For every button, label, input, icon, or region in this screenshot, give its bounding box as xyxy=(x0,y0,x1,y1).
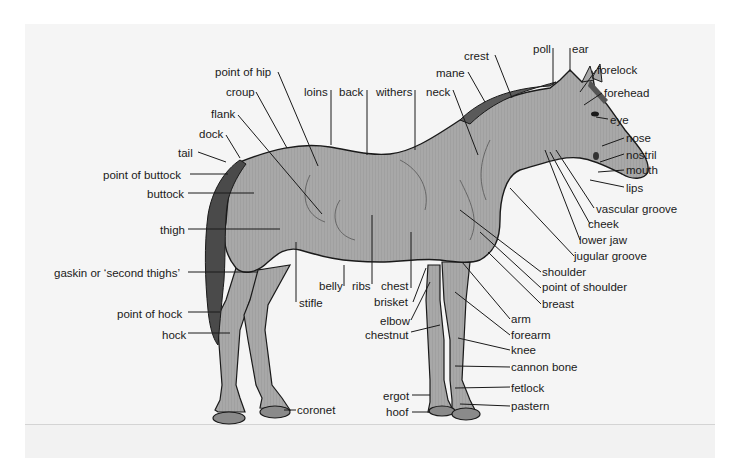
label-thigh: thigh xyxy=(160,224,185,236)
label-point-of-buttock: point of buttock xyxy=(103,169,181,181)
label-ribs: ribs xyxy=(352,280,371,292)
label-eye: eye xyxy=(610,114,629,126)
label-jugular-groove: jugular groove xyxy=(573,250,647,262)
label-lower-jaw: lower jaw xyxy=(579,234,628,246)
label-vascular-groove: vascular groove xyxy=(596,203,677,215)
label-nostril: nostril xyxy=(626,149,657,161)
label-back: back xyxy=(339,86,364,98)
label-coronet: coronet xyxy=(297,404,336,416)
label-stifle: stifle xyxy=(299,297,323,309)
label-flank: flank xyxy=(211,108,236,120)
label-tail: tail xyxy=(178,147,193,159)
label-crest: crest xyxy=(464,50,490,62)
label-nose: nose xyxy=(626,132,651,144)
label-elbow: elbow xyxy=(380,315,411,327)
label-fetlock: fetlock xyxy=(511,382,544,394)
label-ear: ear xyxy=(572,43,589,55)
label-hoof: hoof xyxy=(386,406,409,418)
label-knee: knee xyxy=(511,344,536,356)
label-point-of-shoulder: point of shoulder xyxy=(542,281,627,293)
label-croup: croup xyxy=(226,86,255,98)
label-ergot: ergot xyxy=(383,390,410,402)
nostril-shape xyxy=(593,152,599,160)
label-shoulder: shoulder xyxy=(542,266,586,278)
label-neck: neck xyxy=(426,86,451,98)
label-belly: belly xyxy=(319,280,343,292)
label-breast: breast xyxy=(542,298,575,310)
label-point-of-hock: point of hock xyxy=(117,308,182,320)
label-hock: hock xyxy=(162,329,187,341)
label-point-of-hip: point of hip xyxy=(215,66,271,78)
label-forehead: forehead xyxy=(604,87,649,99)
label-cannon-bone: cannon bone xyxy=(511,361,578,373)
label-brisket: brisket xyxy=(374,296,409,308)
label-withers: withers xyxy=(375,86,413,98)
label-arm: arm xyxy=(511,313,531,325)
label-cheek: cheek xyxy=(588,218,619,230)
label-buttock: buttock xyxy=(147,188,184,200)
label-poll: poll xyxy=(533,43,551,55)
label-chestnut: chestnut xyxy=(365,329,409,341)
eye-shape xyxy=(591,112,599,117)
label-lips: lips xyxy=(626,182,644,194)
label-loins: loins xyxy=(304,86,328,98)
label-mane: mane xyxy=(436,67,465,79)
label-mouth: mouth xyxy=(626,164,658,176)
label-gaskin: gaskin or ‘second thighs’ xyxy=(54,267,180,279)
label-pastern: pastern xyxy=(511,400,549,412)
label-dock: dock xyxy=(199,128,224,140)
label-chest: chest xyxy=(381,280,409,292)
label-forearm: forearm xyxy=(511,329,551,341)
label-forelock: forelock xyxy=(597,64,638,76)
